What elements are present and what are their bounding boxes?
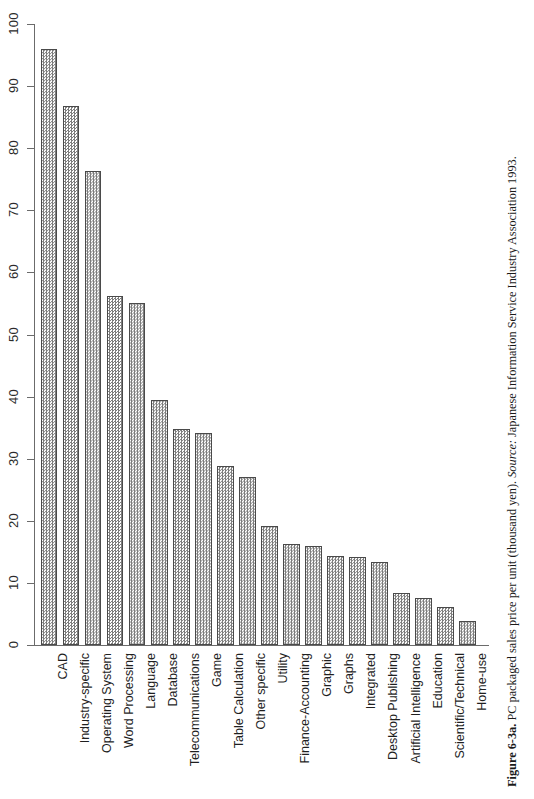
bar [393, 593, 410, 645]
bar [261, 526, 278, 645]
y-tick-30 [27, 459, 34, 460]
bar [173, 429, 190, 645]
bar [63, 106, 80, 645]
category-label: Table Calculation [231, 653, 247, 799]
y-tick-80 [27, 148, 34, 149]
y-tick-label-10: 10 [6, 569, 21, 595]
bar [107, 296, 124, 645]
bar [217, 466, 234, 645]
y-tick-label-60: 60 [6, 259, 21, 285]
bar [151, 400, 168, 645]
bar-series [34, 24, 489, 645]
y-tick-50 [27, 335, 34, 336]
bar [85, 171, 102, 645]
bar [371, 562, 388, 645]
y-tick-label-50: 50 [6, 321, 21, 347]
bar [349, 557, 366, 645]
bar [239, 477, 256, 645]
bar [415, 598, 432, 645]
y-tick-90 [27, 86, 34, 87]
category-label: CAD [55, 653, 71, 799]
category-label: Home-use [474, 653, 490, 799]
category-label: Database [165, 653, 181, 799]
category-label: Language [143, 653, 159, 799]
bar [437, 607, 454, 645]
y-tick-0 [27, 645, 34, 646]
category-label: Desktop Publishing [385, 653, 401, 799]
category-label: Graphic [319, 653, 335, 799]
category-label: Utility [275, 653, 291, 799]
bar [129, 303, 146, 645]
bar [305, 546, 322, 645]
category-label: Operating System [99, 653, 115, 799]
x-axis-category-labels: CADIndustry-specificOperating SystemWord… [34, 645, 489, 799]
category-label: Other specific [253, 653, 269, 799]
y-tick-label-20: 20 [6, 507, 21, 533]
category-label: Education [430, 653, 446, 799]
y-tick-10 [27, 583, 34, 584]
category-label: Integrated [363, 653, 379, 799]
bar [283, 544, 300, 645]
caption-figure-number: Figure 6-3a. [505, 724, 519, 787]
y-tick-100 [27, 24, 34, 25]
chart-plot-area: 0102030405060708090100 [34, 24, 489, 645]
category-label: Telecommunications [187, 653, 203, 799]
category-label: Artificial Intelligence [408, 653, 424, 799]
category-label: Finance-Accounting [297, 653, 313, 799]
bar [195, 433, 212, 645]
category-label: Graphs [341, 653, 357, 799]
y-tick-label-70: 70 [6, 197, 21, 223]
caption-source-label: Source: [505, 440, 519, 478]
figure-6-3a: 0102030405060708090100 CADIndustry-speci… [0, 0, 534, 799]
y-tick-20 [27, 521, 34, 522]
y-tick-70 [27, 210, 34, 211]
bar [41, 49, 58, 645]
y-tick-label-30: 30 [6, 445, 21, 471]
y-tick-label-90: 90 [6, 73, 21, 99]
y-tick-60 [27, 272, 34, 273]
caption-main-text: PC packaged sales price per unit (thousa… [505, 481, 519, 721]
y-tick-label-80: 80 [6, 135, 21, 161]
y-tick-label-0: 0 [6, 632, 21, 658]
y-tick-label-100: 100 [6, 11, 21, 37]
y-tick-label-40: 40 [6, 383, 21, 409]
caption-source-text: Japanese Information Service Industry As… [505, 156, 519, 437]
figure-caption: Figure 6-3a. PC packaged sales price per… [489, 0, 534, 799]
bar [459, 621, 476, 645]
y-tick-40 [27, 397, 34, 398]
category-label: Game [209, 653, 225, 799]
category-label: Industry-specific [77, 653, 93, 799]
category-label: Word Processing [121, 653, 137, 799]
category-label: Scientific/Technical [452, 653, 468, 799]
bar [327, 556, 344, 645]
